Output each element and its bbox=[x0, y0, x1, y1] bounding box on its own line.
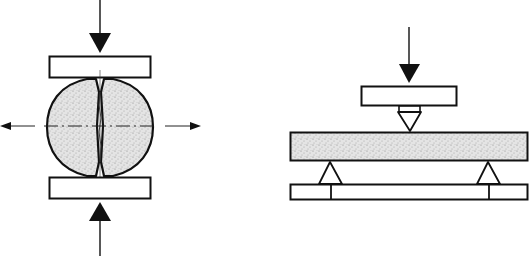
diagram-canvas bbox=[0, 0, 529, 260]
brazilian-test-panel bbox=[0, 0, 201, 256]
support-base bbox=[291, 184, 528, 200]
loading-platen bbox=[362, 87, 457, 106]
beam-specimen bbox=[291, 133, 528, 161]
bottom-load-arrow-icon bbox=[89, 202, 111, 256]
bending-load-arrow-icon bbox=[399, 27, 420, 83]
left-tension-arrow-icon bbox=[0, 122, 11, 130]
specimen-right-half bbox=[101, 79, 153, 176]
specimen-left-half bbox=[47, 79, 99, 176]
bottom-platen bbox=[50, 178, 151, 199]
top-load-arrow-icon bbox=[89, 0, 111, 53]
right-support bbox=[477, 162, 500, 184]
left-support bbox=[319, 162, 342, 184]
right-tension-arrow-icon bbox=[190, 122, 201, 130]
wedge-indenter bbox=[398, 106, 421, 131]
diagram-stage bbox=[0, 0, 529, 260]
three-point-bending-panel bbox=[291, 27, 528, 200]
